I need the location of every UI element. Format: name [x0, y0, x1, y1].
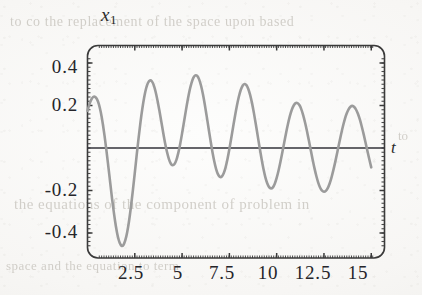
x-tick-label: 15: [348, 262, 369, 284]
y-tick-label: 0.4: [28, 56, 78, 78]
x-tick-label: 5: [173, 262, 183, 284]
x-tick-label: 7.5: [209, 262, 235, 284]
plot-canvas: [0, 0, 422, 295]
data-series-x1: [88, 75, 372, 246]
plot-frame-border: [88, 46, 385, 259]
y-tick-label: -0.2: [20, 179, 78, 201]
y-tick-label: -0.4: [20, 221, 78, 243]
y-tick-label: 0.2: [28, 94, 78, 116]
minor-tick-marks: [88, 46, 385, 259]
x-tick-label: 10: [258, 262, 279, 284]
x-tick-label: 2.5: [118, 262, 144, 284]
major-tick-marks: [88, 46, 385, 259]
x-tick-label: 12.5: [295, 262, 331, 284]
figure-root: to co the replacement of the space upon …: [0, 0, 422, 295]
